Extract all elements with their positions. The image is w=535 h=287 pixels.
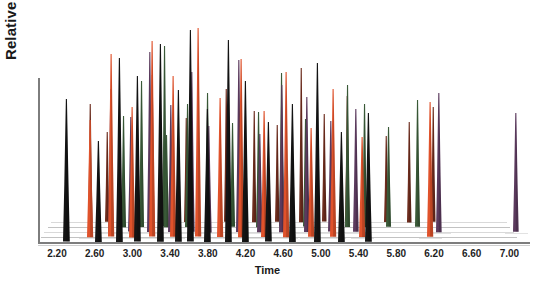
x-tick-label-5.00: 5.00 bbox=[311, 248, 330, 259]
x-tick-label-2.20: 2.20 bbox=[47, 248, 66, 259]
peak-trace-1-5 bbox=[174, 90, 183, 242]
x-tick-label-6.60: 6.60 bbox=[462, 248, 481, 259]
x-tick-label-4.20: 4.20 bbox=[236, 248, 255, 259]
peak-trace-1-9 bbox=[241, 81, 250, 242]
peak-trace-1-11 bbox=[288, 104, 297, 242]
peak-trace-4-12 bbox=[385, 127, 392, 227]
x-tick-label-7.00: 7.00 bbox=[500, 248, 519, 259]
x-tick-label-5.80: 5.80 bbox=[387, 248, 406, 259]
peak-trace-1-0 bbox=[62, 99, 71, 242]
peak-trace-2-13 bbox=[426, 102, 434, 237]
peak-trace-1-4 bbox=[156, 44, 165, 242]
x-tick-label-5.40: 5.40 bbox=[349, 248, 368, 259]
x-tick-label-3.40: 3.40 bbox=[160, 248, 179, 259]
peak-trace-5-11 bbox=[406, 122, 412, 222]
y-axis-title-text: Relative intensity % bbox=[2, 0, 19, 60]
peak-trace-1-1 bbox=[94, 141, 103, 242]
x-axis-depth-line bbox=[38, 245, 530, 246]
peak-trace-1-10 bbox=[264, 122, 273, 242]
x-tick-label-3.80: 3.80 bbox=[198, 248, 217, 259]
x-axis-line bbox=[38, 242, 530, 244]
x-tick-label-6.20: 6.20 bbox=[424, 248, 443, 259]
peak-trace-1-7 bbox=[203, 109, 212, 242]
chromatogram-chart: Relative intensity % Time 2.202.603.003.… bbox=[0, 0, 535, 287]
peak-trace-3-13 bbox=[512, 113, 520, 232]
x-tick-label-3.00: 3.00 bbox=[123, 248, 142, 259]
x-tick-label-2.60: 2.60 bbox=[85, 248, 104, 259]
peak-trace-4-13 bbox=[414, 100, 421, 227]
peak-trace-1-14 bbox=[364, 113, 373, 242]
peak-trace-3-12 bbox=[435, 93, 443, 232]
peak-trace-1-8 bbox=[224, 40, 233, 242]
y-axis-line bbox=[38, 78, 40, 243]
x-axis-title: Time bbox=[0, 264, 535, 276]
peak-trace-1-12 bbox=[313, 63, 322, 242]
peak-trace-1-13 bbox=[337, 132, 346, 242]
y-axis-title: Relative intensity % bbox=[2, 0, 19, 60]
plot-area bbox=[0, 0, 535, 250]
peak-foot-shadow bbox=[419, 238, 442, 239]
peak-trace-1-3 bbox=[133, 76, 142, 242]
peak-trace-1-6 bbox=[186, 30, 195, 242]
x-tick-label-4.60: 4.60 bbox=[273, 248, 292, 259]
peak-trace-1-2 bbox=[115, 58, 124, 242]
peak-foot-shadow bbox=[505, 233, 528, 234]
